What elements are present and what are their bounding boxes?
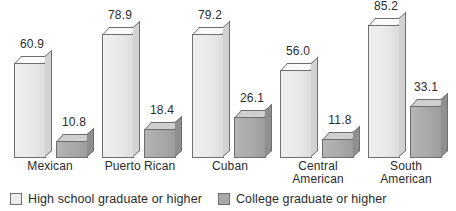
bar-front-face	[411, 107, 441, 157]
chart-legend: High school graduate or higher College g…	[10, 192, 387, 206]
bar-side-face	[265, 104, 272, 157]
bar-front-face	[235, 118, 265, 157]
bar-front-face	[193, 35, 223, 157]
value-label-high-school-puerto-rican: 78.9	[98, 8, 142, 22]
bar-side-face	[311, 57, 318, 157]
legend-label-high-school: High school graduate or higher	[28, 192, 202, 206]
bar-front-face	[369, 26, 399, 157]
value-label-college-south-american: 33.1	[404, 80, 448, 94]
category-label-line1: Puerto Rican	[92, 160, 188, 173]
bar-side-face	[223, 21, 230, 157]
bar-side-face	[87, 128, 94, 157]
bar-group-cuban: 79.2 26.1	[186, 17, 274, 158]
bar-high-school-central-american	[280, 70, 312, 158]
bar-chart: 60.9 10.8 Mexican 78.9 18	[0, 0, 456, 211]
value-label-high-school-mexican: 60.9	[10, 37, 54, 51]
category-label-central-american: Central American	[274, 160, 362, 186]
value-label-college-puerto-rican: 18.4	[140, 103, 184, 117]
category-label-line2: American	[274, 173, 362, 186]
bar-side-face	[441, 93, 448, 157]
bar-front-face	[57, 142, 87, 157]
legend-item-college: College graduate or higher	[218, 192, 387, 206]
bar-side-face	[133, 21, 140, 157]
bar-group-puerto-rican: 78.9 18.4	[96, 17, 184, 158]
bar-college-puerto-rican	[144, 129, 176, 158]
value-label-college-central-american: 11.8	[318, 113, 362, 127]
category-label-south-american: South American	[362, 160, 450, 186]
bar-college-mexican	[56, 141, 88, 158]
bar-college-south-american	[410, 106, 442, 158]
value-label-college-cuban: 26.1	[230, 91, 274, 105]
bar-front-face	[15, 64, 45, 157]
bar-front-face	[103, 35, 133, 157]
bar-side-face	[45, 50, 52, 157]
category-label-cuban: Cuban	[186, 160, 274, 173]
value-label-college-mexican: 10.8	[52, 115, 96, 129]
value-label-high-school-south-american: 85.2	[364, 0, 408, 13]
bar-high-school-south-american	[368, 25, 400, 158]
bar-side-face	[353, 126, 360, 157]
legend-item-high-school: High school graduate or higher	[10, 192, 202, 206]
category-label-line1: Cuban	[186, 160, 274, 173]
bar-high-school-puerto-rican	[102, 34, 134, 158]
bar-group-mexican: 60.9 10.8	[8, 17, 96, 158]
dark-gray-swatch-icon	[218, 193, 230, 205]
bar-group-central-american: 56.0 11.8	[274, 17, 362, 158]
category-label-mexican: Mexican	[6, 160, 94, 173]
value-label-high-school-central-american: 56.0	[276, 44, 320, 58]
bar-group-south-american: 85.2 33.1	[362, 17, 450, 158]
plot-area: 60.9 10.8 Mexican 78.9 18	[0, 0, 456, 175]
bar-front-face	[323, 140, 353, 157]
bar-side-face	[175, 116, 182, 157]
bar-front-face	[281, 71, 311, 157]
bar-front-face	[145, 130, 175, 157]
category-label-puerto-rican: Puerto Rican	[92, 160, 188, 173]
value-label-high-school-cuban: 79.2	[188, 8, 232, 22]
bar-high-school-mexican	[14, 63, 46, 158]
light-gray-swatch-icon	[10, 193, 22, 205]
category-label-line1: Mexican	[6, 160, 94, 173]
bar-college-cuban	[234, 117, 266, 158]
bar-high-school-cuban	[192, 34, 224, 158]
bar-college-central-american	[322, 139, 354, 158]
legend-label-college: College graduate or higher	[236, 192, 387, 206]
category-label-line2: American	[362, 173, 450, 186]
